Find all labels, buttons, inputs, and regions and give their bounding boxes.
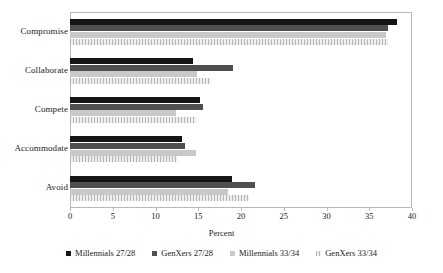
bar: [70, 104, 203, 110]
legend-swatch-icon: [316, 251, 321, 256]
x-axis-title: Percent: [0, 228, 443, 238]
legend-item[interactable]: Millennials 27/28: [66, 248, 135, 258]
legend-label: Millennials 27/28: [75, 248, 135, 258]
legend-label: GenXers 27/28: [161, 248, 213, 258]
bar: [70, 97, 200, 103]
bar: [70, 150, 196, 156]
tick-label: 0: [58, 211, 82, 221]
legend-item[interactable]: GenXers 27/28: [152, 248, 213, 258]
legend-swatch-icon: [230, 251, 235, 256]
legend-swatch-icon: [152, 251, 157, 256]
bar: [70, 58, 193, 64]
tick-label: 35: [357, 211, 381, 221]
bar: [70, 71, 197, 77]
tick-label: 10: [144, 211, 168, 221]
bar: [70, 39, 388, 45]
bar: [70, 65, 233, 71]
legend-item[interactable]: GenXers 33/34: [316, 248, 377, 258]
bar: [70, 195, 249, 201]
bar: [70, 189, 228, 195]
bar: [70, 117, 196, 123]
bar: [70, 25, 388, 31]
category-label: Compromise: [21, 26, 69, 36]
bar: [70, 19, 397, 25]
horizontal-bar-chart: CompromiseCollaborateCompeteAccommodateA…: [0, 0, 443, 273]
category-label: Avoid: [46, 182, 68, 192]
legend-label: GenXers 33/34: [325, 248, 377, 258]
bar: [70, 78, 211, 84]
tick-label: 5: [101, 211, 125, 221]
legend-swatch-icon: [66, 251, 71, 256]
bar: [70, 182, 255, 188]
tick-label: 30: [315, 211, 339, 221]
category-label: Collaborate: [25, 65, 68, 75]
category-label: Accommodate: [14, 143, 68, 153]
bar: [70, 32, 386, 38]
legend-label: Millennials 33/34: [239, 248, 299, 258]
bar: [70, 176, 232, 182]
bar: [70, 156, 177, 162]
chart-legend: Millennials 27/28GenXers 27/28Millennial…: [0, 248, 443, 258]
tick-label: 20: [229, 211, 253, 221]
bar: [70, 110, 176, 116]
category-label: Compete: [35, 104, 68, 114]
bar: [70, 136, 182, 142]
tick-label: 15: [186, 211, 210, 221]
bar: [70, 143, 185, 149]
tick-label: 40: [400, 211, 424, 221]
legend-item[interactable]: Millennials 33/34: [230, 248, 299, 258]
tick-label: 25: [272, 211, 296, 221]
